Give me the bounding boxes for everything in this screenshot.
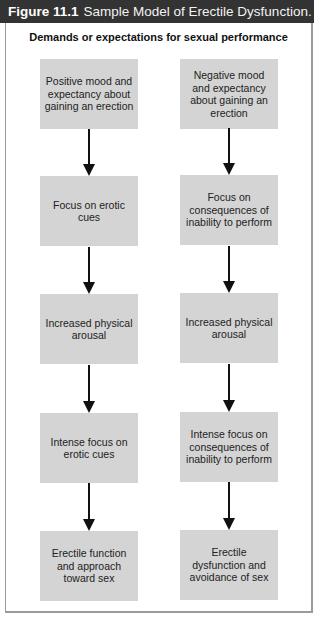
arrow-down-icon xyxy=(83,247,95,294)
left-box-2: Focus on erotic cues xyxy=(40,176,138,246)
arrow-down-icon xyxy=(83,129,95,176)
figure-title: Sample Model of Erectile Dysfunction. xyxy=(84,4,312,19)
left-box-1: Positive mood and expectancy about gaini… xyxy=(40,59,138,129)
figure-number: Figure 11.1 xyxy=(8,4,79,19)
arrow-down-icon xyxy=(223,364,235,412)
left-box-4: Intense focus on erotic cues xyxy=(40,413,138,483)
top-label: Demands or expectations for sexual perfo… xyxy=(0,31,317,43)
right-box-2: Focus on consequences of inability to pe… xyxy=(180,175,278,245)
arrow-down-icon xyxy=(223,128,235,175)
arrow-down-icon xyxy=(83,365,95,413)
right-box-5: Erectile dysfunction and avoidance of se… xyxy=(180,530,278,600)
right-box-4: Intense focus on consequences of inabili… xyxy=(180,412,278,482)
right-box-3: Increased physical arousal xyxy=(180,293,278,363)
left-box-3: Increased physical arousal xyxy=(40,294,138,364)
arrow-down-icon xyxy=(83,483,95,531)
left-box-5: Erectile function and approach toward se… xyxy=(40,531,138,601)
arrow-down-icon xyxy=(223,482,235,530)
figure-header: Figure 11.1 Sample Model of Erectile Dys… xyxy=(0,0,314,23)
right-box-1: Negative mood and expectancy about gaini… xyxy=(180,59,278,129)
arrow-down-icon xyxy=(223,246,235,293)
